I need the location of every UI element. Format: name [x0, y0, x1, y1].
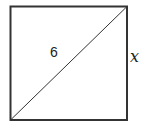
side-length-label: x [130, 47, 139, 66]
diagonal [11, 7, 128, 121]
square-diagram [0, 0, 147, 129]
diagonal-length-label: 6 [50, 44, 58, 60]
